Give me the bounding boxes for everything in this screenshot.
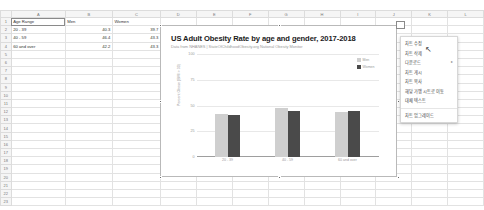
legend-item-men[interactable]: Men [357,58,375,62]
cell-a14[interactable] [11,124,65,132]
cell-a11[interactable] [11,99,65,107]
cell-i21[interactable] [340,181,376,189]
row-header-13[interactable]: 13 [1,116,12,124]
row-header-19[interactable]: 19 [1,165,12,173]
column-header-i[interactable]: I [340,11,376,18]
cell-c7[interactable] [112,67,160,75]
resize-handle-bottom-middle[interactable] [278,176,281,179]
cell-c19[interactable] [112,165,160,173]
cell-c1-women[interactable]: Women [112,18,160,26]
cell-a22[interactable] [11,189,65,197]
cell-l17[interactable] [448,149,484,157]
bar-women-40-59[interactable] [288,111,301,157]
row-header-10[interactable]: 10 [1,91,12,99]
row-header-22[interactable]: 22 [1,189,12,197]
cell-b21[interactable] [65,181,112,189]
cell-a16[interactable] [11,140,65,148]
cell-g23[interactable] [268,198,304,206]
cell-l21[interactable] [448,181,484,189]
table-row[interactable]: 22 [1,189,484,197]
cell-e23[interactable] [196,198,232,206]
cell-a21[interactable] [11,181,65,189]
row-header-14[interactable]: 14 [1,124,12,132]
cell-k15[interactable] [412,132,448,140]
column-header-a[interactable]: A [11,11,65,18]
row-header-23[interactable]: 23 [1,198,12,206]
cell-d22[interactable] [160,189,196,197]
cell-k21[interactable] [412,181,448,189]
cell-e21[interactable] [196,181,232,189]
cell-a2-age-range[interactable]: 20 - 39 [11,26,65,34]
chart-object[interactable]: US Adult Obesity Rate by age and gender,… [160,25,397,177]
cell-c10[interactable] [112,91,160,99]
cell-a23[interactable] [11,198,65,206]
row-header-1[interactable]: 1 [1,18,12,26]
cell-j21[interactable] [376,181,412,189]
cell-c23[interactable] [112,198,160,206]
cell-a13[interactable] [11,116,65,124]
cell-b12[interactable] [65,108,112,116]
cell-k17[interactable] [412,149,448,157]
row-header-2[interactable]: 2 [1,26,12,34]
resize-handle-bottom-left[interactable] [159,176,162,179]
cell-c6[interactable] [112,58,160,66]
cell-c8[interactable] [112,75,160,83]
cell-l14[interactable] [448,124,484,132]
column-header-h[interactable]: H [304,11,340,18]
cell-a12[interactable] [11,108,65,116]
row-header-12[interactable]: 12 [1,108,12,116]
cell-b7[interactable] [65,67,112,75]
cell-b11[interactable] [65,99,112,107]
cell-c14[interactable] [112,124,160,132]
cell-f22[interactable] [232,189,268,197]
cell-k1[interactable] [412,18,448,26]
cell-c21[interactable] [112,181,160,189]
table-row[interactable]: 21 [1,181,484,189]
cell-c17[interactable] [112,149,160,157]
cell-c12[interactable] [112,108,160,116]
cell-b15[interactable] [65,132,112,140]
cell-b16[interactable] [65,140,112,148]
cell-l2[interactable] [448,26,484,34]
column-header-j[interactable]: J [376,11,412,18]
bar-men-20-39[interactable] [215,114,228,157]
cell-b20[interactable] [65,173,112,181]
cell-c9[interactable] [112,83,160,91]
cell-i23[interactable] [340,198,376,206]
cell-c20[interactable] [112,173,160,181]
bar-men-40-59[interactable] [275,108,288,157]
cell-a18[interactable] [11,157,65,165]
cell-k22[interactable] [412,189,448,197]
cell-b10[interactable] [65,91,112,99]
cell-a1-age-range[interactable]: Age Range [11,18,65,26]
cell-a15[interactable] [11,132,65,140]
bar-women-20-39[interactable] [228,115,241,157]
cell-a3-age-range[interactable]: 40 - 59 [11,34,65,42]
cell-b9[interactable] [65,83,112,91]
column-header-c[interactable]: C [112,11,160,18]
cell-b2-men[interactable]: 40.3 [65,26,112,34]
cell-h22[interactable] [304,189,340,197]
column-header-b[interactable]: B [65,11,112,18]
resize-handle-bottom-right[interactable] [397,176,400,179]
chart-overflow-menu-button[interactable] [396,21,405,29]
cell-b4-men[interactable]: 42.2 [65,42,112,50]
cell-c16[interactable] [112,140,160,148]
column-header-g[interactable]: G [268,11,304,18]
bar-men-60-over[interactable] [335,112,348,157]
row-header-5[interactable]: 5 [1,50,12,58]
cell-a4-age-range[interactable]: 60 and over [11,42,65,50]
column-header-f[interactable]: F [232,11,268,18]
row-header-3[interactable]: 3 [1,34,12,42]
cell-g22[interactable] [268,189,304,197]
resize-handle-middle-left[interactable] [159,100,162,103]
cell-b22[interactable] [65,189,112,197]
cell-k20[interactable] [412,173,448,181]
cell-d23[interactable] [160,198,196,206]
cell-k14[interactable] [412,124,448,132]
menu-item-publish-chart[interactable]: 차트 게시 [401,68,457,78]
cell-h23[interactable] [304,198,340,206]
cell-c5[interactable] [112,50,160,58]
menu-item-upgrade-chart[interactable]: 차트 업그레이드 [401,111,457,121]
row-header-20[interactable]: 20 [1,173,12,181]
